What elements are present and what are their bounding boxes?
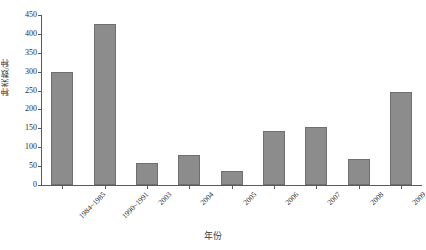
bar — [94, 24, 116, 185]
bar — [390, 92, 412, 185]
y-axis-tick-mark — [38, 128, 41, 129]
y-axis-tick-label: 100 — [13, 143, 37, 151]
y-axis-tick-mark — [38, 15, 41, 16]
plot-area — [41, 15, 422, 186]
y-axis-tick-mark — [38, 109, 41, 110]
y-axis-tick-label: 450 — [13, 11, 37, 19]
bar — [348, 159, 370, 185]
y-axis-tick-label: 250 — [13, 87, 37, 95]
x-axis-tick-label: 1984~1985 — [77, 190, 107, 220]
bar — [136, 163, 158, 185]
x-axis-tick-mark — [105, 186, 106, 189]
y-axis-tick-label: 300 — [13, 68, 37, 76]
x-axis-tick-label: 1990~1991 — [119, 190, 149, 220]
bar — [51, 72, 73, 185]
y-axis-tick-mark — [38, 34, 41, 35]
y-axis-tick-label: 350 — [13, 49, 37, 57]
x-axis-tick-mark — [316, 186, 317, 189]
x-axis-tick-mark — [62, 186, 63, 189]
x-axis-tick-label: 2009 — [410, 190, 426, 207]
bar-chart: 种类数/种 050100150200250300350400450 1984~1… — [0, 0, 426, 250]
x-axis-tick-mark — [147, 186, 148, 189]
x-axis-tick-mark — [401, 186, 402, 189]
y-axis-tick-label: 150 — [13, 124, 37, 132]
x-axis-tick-label: 2005 — [241, 190, 258, 207]
x-axis-tick-mark — [189, 186, 190, 189]
y-axis-tick-label: 200 — [13, 105, 37, 113]
x-axis-title: 年份 — [0, 229, 426, 242]
x-axis-tick-mark — [274, 186, 275, 189]
x-axis-tick-label: 2006 — [283, 190, 300, 207]
y-axis-tick-mark — [38, 91, 41, 92]
y-axis-tick-mark — [38, 53, 41, 54]
x-axis-tick-mark — [232, 186, 233, 189]
x-axis-tick-label: 2008 — [368, 190, 385, 207]
bar — [178, 155, 200, 185]
bar — [305, 127, 327, 185]
y-axis-tick-mark — [38, 72, 41, 73]
x-axis-tick-label: 2003 — [156, 190, 173, 207]
x-axis-tick-label: 2004 — [199, 190, 216, 207]
x-axis-tick-mark — [359, 186, 360, 189]
y-axis-tick-mark — [38, 147, 41, 148]
bar — [263, 131, 285, 185]
y-axis-tick-label: 400 — [13, 30, 37, 38]
x-axis-tick-label: 2007 — [326, 190, 343, 207]
y-axis-tick-mark — [38, 166, 41, 167]
y-axis-tick-label: 50 — [13, 162, 37, 170]
y-axis-tick-mark — [38, 185, 41, 186]
bar — [221, 171, 243, 185]
y-axis-line — [41, 15, 42, 186]
y-axis-tick-label: 0 — [13, 181, 37, 189]
